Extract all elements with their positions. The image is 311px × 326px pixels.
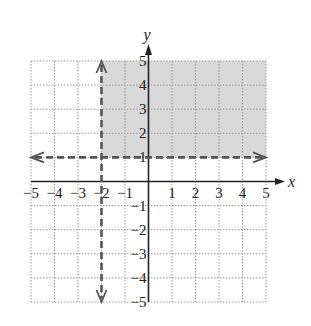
x-axis-arrow-icon [275,178,285,185]
y-tick-label: −4 [131,270,147,286]
x-tick-label: 2 [192,185,200,201]
coordinate-plane: xy−5−4−3−2−11234554321−1−2−3−4−5 [0,0,311,326]
x-tick-label: 3 [215,185,223,201]
y-tick-label: −5 [131,294,147,310]
x-tick-label: 1 [168,185,176,201]
x-tick-label: −4 [47,185,63,201]
x-tick-label: −3 [70,185,86,201]
y-tick-label: 5 [139,53,147,69]
x-tick-label: 4 [239,185,247,201]
y-tick-label: 3 [139,101,147,117]
y-tick-label: 4 [139,77,147,93]
y-tick-label: −3 [131,246,147,262]
x-axis-label: x [287,173,295,190]
y-axis-label: y [142,26,152,44]
x-tick-label: −5 [23,185,39,201]
y-tick-label: −1 [131,198,147,214]
y-tick-label: −2 [131,222,147,238]
x-tick-label: 5 [262,185,270,201]
y-tick-label: 2 [139,125,147,141]
